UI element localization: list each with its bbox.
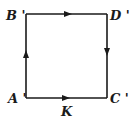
vertex-label-b: B ' xyxy=(5,8,26,23)
arrow-down-icon xyxy=(104,48,110,56)
arrow-right-icon xyxy=(64,11,72,17)
cycle-diagram: B ' D ' A ' C ' K xyxy=(0,0,136,123)
edge-label-k: K xyxy=(60,104,73,119)
arrow-up-icon xyxy=(23,50,29,58)
vertex-label-a: A ' xyxy=(6,91,27,106)
arrow-right-icon xyxy=(62,95,70,101)
vertex-label-c: C ' xyxy=(110,91,129,106)
vertex-label-d: D ' xyxy=(109,8,130,23)
